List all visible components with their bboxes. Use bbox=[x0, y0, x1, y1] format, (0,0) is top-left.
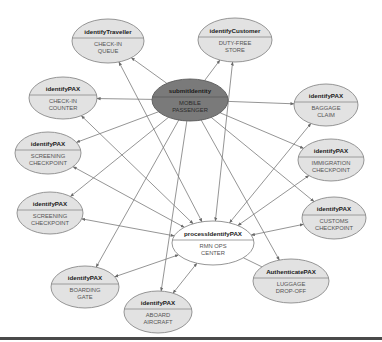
node-subtitle-line: SCREENING bbox=[31, 153, 66, 159]
node-title: identifyCustomer bbox=[210, 27, 261, 34]
nodes-layer: submitIdentityMOBILEPASSENGERprocessIden… bbox=[15, 18, 366, 333]
edge-process-to-baggage bbox=[229, 123, 310, 222]
node-subtitle-line: IMMIGRATION bbox=[312, 160, 351, 166]
node-title: identifyPAX bbox=[141, 299, 176, 306]
node-title: identifyPAX bbox=[31, 140, 66, 147]
node-aboard: identifyPAXABOARDAIRCRAFT bbox=[124, 291, 192, 333]
node-subtitle-line: GATE bbox=[77, 294, 92, 300]
edge-process-to-aboard bbox=[173, 263, 197, 293]
node-title: identifyPAX bbox=[309, 92, 344, 99]
edge-process-to-screening2 bbox=[82, 219, 175, 236]
node-screening2: identifyPAXSCREENINGCHECKPOINT bbox=[17, 192, 83, 234]
node-subtitle-line: QUEUE bbox=[98, 48, 119, 54]
edge-submit-to-screening1 bbox=[76, 112, 158, 143]
edge-submit-to-immigration bbox=[220, 113, 303, 149]
node-process: processIdentifyPAXRMN OPSCENTER bbox=[172, 221, 254, 265]
identity-flow-diagram: submitIdentityMOBILEPASSENGERprocessIden… bbox=[0, 0, 382, 342]
node-title: processIdentifyPAX bbox=[184, 230, 243, 237]
node-submit: submitIdentityMOBILEPASSENGER bbox=[152, 79, 228, 121]
edge-process-to-customs bbox=[251, 224, 303, 235]
node-subtitle-line: CUSTOMS bbox=[320, 218, 349, 224]
edge-submit-to-checkin bbox=[97, 99, 152, 100]
node-luggage: AuthenticatePAXLUGGAGEDROP-OFF bbox=[253, 259, 329, 303]
node-boarding: identifyPAXBOARDINGGATE bbox=[51, 266, 119, 308]
node-subtitle-line: MOBILE bbox=[179, 100, 201, 106]
node-subtitle-line: STORE bbox=[225, 47, 245, 53]
node-subtitle-line: ABOARD bbox=[146, 312, 170, 318]
node-subtitle-line: CHECKPOINT bbox=[315, 225, 353, 231]
edge-submit-to-aboard bbox=[161, 121, 187, 291]
node-subtitle-line: RMN OPS bbox=[199, 243, 226, 249]
edge-submit-to-customer bbox=[205, 60, 220, 81]
edge-process-to-screening1 bbox=[73, 167, 184, 228]
node-subtitle-line: CHECK-IN bbox=[94, 41, 122, 47]
node-title: identifyTraveller bbox=[84, 28, 132, 35]
node-immigration: identifyPAXIMMIGRATIONCHECKPOINT bbox=[298, 139, 364, 181]
node-title: identifyPAX bbox=[33, 200, 68, 207]
node-subtitle-line: DUTY-FREE bbox=[219, 40, 252, 46]
node-title: identifyPAX bbox=[46, 85, 81, 92]
node-subtitle-line: AIRCRAFT bbox=[144, 319, 173, 325]
node-subtitle-line: SCREENING bbox=[33, 213, 68, 219]
node-subtitle-line: CHECKPOINT bbox=[31, 220, 69, 226]
node-screening1: identifyPAXSCREENINGCHECKPOINT bbox=[15, 132, 81, 174]
bottom-rule-divider bbox=[0, 337, 382, 340]
node-subtitle-line: DROP-OFF bbox=[276, 288, 307, 294]
edge-process-to-boarding bbox=[115, 255, 179, 277]
node-customer: identifyCustomerDUTY-FREESTORE bbox=[198, 18, 272, 62]
node-subtitle-line: BAGGAGE bbox=[312, 105, 341, 111]
node-subtitle-line: CHECKPOINT bbox=[312, 167, 350, 173]
edge-submit-to-baggage bbox=[228, 101, 294, 103]
node-baggage: identifyPAXBAGGAGECLAIM bbox=[294, 84, 358, 126]
node-title: AuthenticatePAX bbox=[266, 268, 317, 275]
node-title: identifyPAX bbox=[314, 147, 349, 154]
node-subtitle-line: BOARDING bbox=[70, 287, 101, 293]
node-traveller: identifyTravellerCHECK-INQUEUE bbox=[72, 19, 144, 63]
edge-submit-to-traveller bbox=[131, 58, 167, 84]
edge-process-to-luggage bbox=[243, 258, 262, 267]
node-subtitle-line: CHECK-IN bbox=[49, 98, 77, 104]
node-customs: identifyPAXCUSTOMSCHECKPOINT bbox=[302, 197, 366, 239]
node-title: submitIdentity bbox=[169, 87, 212, 94]
node-subtitle-line: CLAIM bbox=[317, 112, 335, 118]
node-subtitle-line: LUGGAGE bbox=[277, 281, 306, 287]
edge-process-to-checkin bbox=[81, 116, 193, 224]
edge-process-to-immigration bbox=[238, 176, 309, 226]
node-title: identifyPAX bbox=[68, 274, 103, 281]
node-title: identifyPAX bbox=[317, 205, 352, 212]
node-subtitle-line: COUNTER bbox=[49, 105, 78, 111]
node-subtitle-line: CHECKPOINT bbox=[29, 160, 67, 166]
node-checkin: identifyPAXCHECK-INCOUNTER bbox=[29, 77, 97, 119]
node-subtitle-line: PASSENGER bbox=[172, 107, 208, 113]
node-subtitle-line: CENTER bbox=[201, 250, 225, 256]
